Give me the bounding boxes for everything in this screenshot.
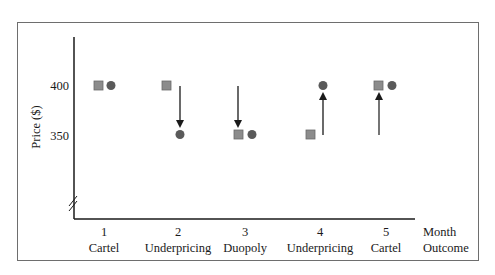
x-axis-title-month: Month — [423, 225, 457, 239]
marker-circle-m4 — [319, 81, 328, 90]
y-axis-break-icon — [69, 196, 77, 211]
month-4-outcome: Underpricing — [287, 241, 354, 255]
marker-circle-m5 — [388, 81, 397, 90]
month-5-number: 5 — [383, 225, 389, 239]
y-axis-title: Price ($) — [29, 105, 43, 148]
marker-square-m4 — [306, 130, 315, 139]
marker-circle-m3 — [248, 130, 257, 139]
marker-square-m5 — [374, 81, 383, 90]
month-2-outcome: Underpricing — [145, 241, 212, 255]
month-3-outcome: Duopoly — [223, 241, 268, 255]
x-axis-title-outcome: Outcome — [423, 241, 469, 255]
month-1-outcome: Cartel — [89, 241, 120, 255]
price-chart: 400 350 Price ($) 1 Cartel 2 Underpricin… — [0, 0, 495, 275]
month-4-number: 4 — [317, 225, 324, 239]
marker-square-m1 — [94, 81, 103, 90]
month-2-number: 2 — [175, 225, 181, 239]
marker-circle-m2 — [176, 130, 185, 139]
y-tick-400: 400 — [50, 79, 69, 93]
marker-circle-m1 — [107, 81, 116, 90]
marker-square-m3 — [234, 130, 243, 139]
marker-square-m2 — [162, 81, 171, 90]
y-tick-350: 350 — [50, 129, 69, 143]
month-5-outcome: Cartel — [371, 241, 402, 255]
month-1-number: 1 — [101, 225, 107, 239]
month-3-number: 3 — [242, 225, 248, 239]
